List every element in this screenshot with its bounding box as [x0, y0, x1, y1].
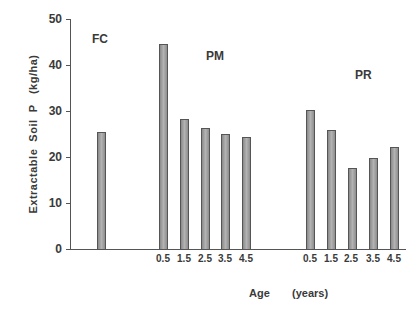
- bar-pm-3.5: [221, 134, 230, 250]
- bar-pr-2.5: [348, 168, 357, 250]
- x-tick-label: 0.5: [153, 253, 173, 264]
- bar-pm-0.5: [159, 44, 168, 250]
- bar-pr-4.5: [390, 147, 399, 250]
- y-tick: [66, 203, 70, 204]
- bar-pr-0.5: [306, 110, 315, 250]
- y-tick-label: 30: [38, 104, 62, 118]
- x-tick-label: 3.5: [215, 253, 235, 264]
- y-tick-label: 0: [38, 242, 62, 256]
- group-label-pr: PR: [355, 68, 372, 82]
- y-tick: [66, 157, 70, 158]
- x-tick-label: 4.5: [384, 253, 404, 264]
- y-tick-label: 50: [38, 12, 62, 26]
- bar-pr-1.5: [327, 130, 336, 250]
- y-tick: [66, 19, 70, 20]
- y-tick: [66, 111, 70, 112]
- x-tick-label: 4.5: [236, 253, 256, 264]
- x-tick-label: 3.5: [363, 253, 383, 264]
- x-axis-title-units: (years): [292, 287, 328, 299]
- x-axis-title-age: Age: [249, 287, 270, 299]
- x-tick-label: 2.5: [195, 253, 215, 264]
- y-tick-label: 20: [38, 150, 62, 164]
- bar-pm-1.5: [180, 119, 189, 250]
- y-tick: [66, 65, 70, 66]
- group-label-pm: PM: [206, 49, 224, 63]
- group-label-fc: FC: [92, 32, 108, 46]
- bar-pr-3.5: [369, 158, 378, 250]
- y-axis: [70, 19, 71, 250]
- y-tick-label: 40: [38, 58, 62, 72]
- x-tick-label: 0.5: [300, 253, 320, 264]
- x-tick-label: 1.5: [321, 253, 341, 264]
- bar-fc: [97, 132, 106, 250]
- y-tick-label: 10: [38, 196, 62, 210]
- bar-pm-4.5: [242, 137, 251, 250]
- bar-pm-2.5: [201, 128, 210, 250]
- x-tick-label: 2.5: [341, 253, 361, 264]
- x-tick-label: 1.5: [174, 253, 194, 264]
